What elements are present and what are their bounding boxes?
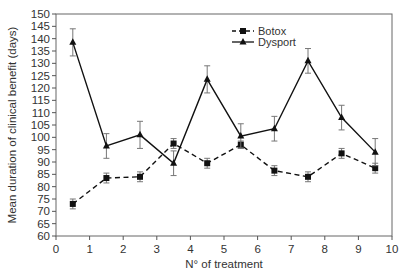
point-botox bbox=[103, 175, 109, 181]
point-dysport bbox=[137, 131, 144, 138]
y-tick-label: 105 bbox=[31, 119, 50, 131]
legend: BotoxDysport bbox=[232, 25, 296, 48]
y-tick-label: 100 bbox=[31, 131, 50, 143]
line-dysport bbox=[73, 42, 375, 163]
point-botox bbox=[204, 160, 210, 166]
point-dysport bbox=[69, 38, 76, 45]
y-tick-label: 125 bbox=[31, 70, 50, 82]
x-tick-label: 10 bbox=[386, 243, 399, 255]
y-tick-label: 60 bbox=[37, 230, 50, 242]
x-tick-label: 5 bbox=[221, 243, 227, 255]
y-tick-label: 115 bbox=[32, 94, 50, 106]
point-botox bbox=[171, 141, 177, 147]
y-tick-label: 85 bbox=[37, 168, 50, 180]
y-axis-title: Mean duration of clinical benefit (days) bbox=[6, 26, 18, 223]
x-tick-label: 9 bbox=[355, 243, 361, 255]
x-axis-title: N° of treatment bbox=[185, 258, 263, 270]
x-tick-label: 0 bbox=[53, 243, 59, 255]
legend-marker-botox bbox=[240, 28, 246, 34]
chart: 6065707580859095100105110115120125130135… bbox=[0, 0, 409, 280]
series-botox bbox=[70, 139, 378, 209]
x-axis: 012345678910 bbox=[53, 236, 399, 255]
x-tick-label: 4 bbox=[187, 243, 194, 255]
y-tick-label: 90 bbox=[37, 156, 50, 168]
x-tick-label: 8 bbox=[322, 243, 328, 255]
y-tick-label: 120 bbox=[31, 82, 50, 94]
y-axis: 6065707580859095100105110115120125130135… bbox=[31, 8, 56, 242]
point-botox bbox=[305, 174, 311, 180]
line-botox bbox=[73, 144, 375, 204]
x-tick-label: 2 bbox=[120, 243, 126, 255]
point-botox bbox=[137, 174, 143, 180]
y-tick-label: 140 bbox=[31, 33, 50, 45]
y-tick-label: 150 bbox=[31, 8, 50, 20]
y-tick-label: 130 bbox=[31, 57, 50, 69]
legend-marker-dysport bbox=[240, 38, 247, 45]
point-botox bbox=[339, 150, 345, 156]
point-dysport bbox=[305, 57, 312, 64]
y-tick-label: 70 bbox=[37, 205, 50, 217]
y-tick-label: 135 bbox=[31, 45, 50, 57]
y-tick-label: 65 bbox=[37, 218, 50, 230]
series-layer bbox=[69, 29, 378, 209]
point-dysport bbox=[170, 159, 177, 166]
point-dysport bbox=[271, 125, 278, 132]
x-tick-label: 3 bbox=[154, 243, 160, 255]
x-tick-label: 1 bbox=[86, 243, 92, 255]
x-tick-label: 6 bbox=[254, 243, 260, 255]
legend-label-dysport: Dysport bbox=[258, 36, 296, 48]
y-tick-label: 95 bbox=[37, 144, 50, 156]
y-tick-label: 75 bbox=[37, 193, 50, 205]
y-tick-label: 110 bbox=[32, 107, 50, 119]
legend-item-dysport: Dysport bbox=[232, 36, 296, 48]
point-dysport bbox=[204, 75, 211, 82]
x-tick-label: 7 bbox=[288, 243, 294, 255]
y-tick-label: 80 bbox=[37, 181, 50, 193]
y-tick-label: 145 bbox=[31, 20, 50, 32]
point-botox bbox=[70, 201, 76, 207]
point-botox bbox=[271, 168, 277, 174]
